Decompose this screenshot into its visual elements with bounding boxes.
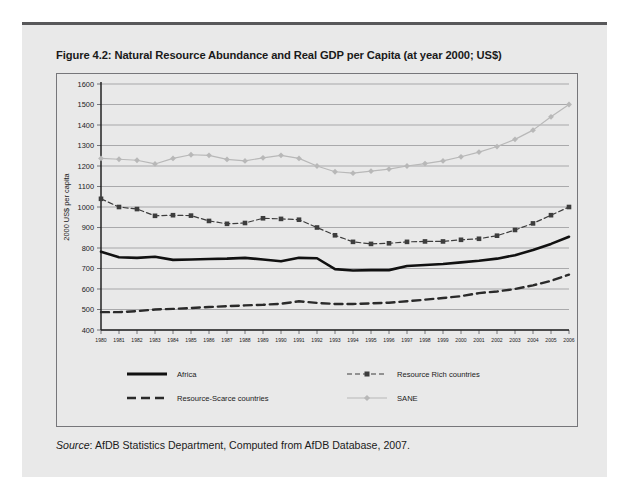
series-marker (117, 205, 122, 210)
y-axis-ticks: 4005006007008009001000110012001300140015… (78, 80, 101, 335)
series-marker (477, 236, 482, 241)
series-line (101, 105, 569, 174)
y-tick-label: 1400 (78, 121, 94, 130)
series-marker (512, 136, 518, 142)
chart-plot-area: 4005006007008009001000110012001300140015… (56, 73, 578, 427)
legend-marker (365, 372, 370, 377)
x-tick-label: 2004 (527, 337, 538, 343)
series-marker (440, 158, 446, 164)
y-axis-title: 2000 US$ per capita (62, 172, 71, 240)
series-marker (441, 239, 446, 244)
x-tick-label: 1998 (419, 337, 430, 343)
y-tick-label: 1200 (78, 162, 94, 171)
x-tick-label: 1992 (311, 337, 322, 343)
series-line (101, 275, 569, 313)
x-tick-label: 1990 (275, 337, 286, 343)
series-marker (207, 219, 212, 224)
gdp-per-capita-line-chart: 4005006007008009001000110012001300140015… (57, 74, 575, 424)
y-tick-label: 1500 (78, 100, 94, 109)
series-marker (99, 197, 104, 202)
series-marker (513, 228, 518, 233)
y-tick-label: 500 (82, 305, 94, 314)
series-marker (404, 163, 410, 169)
y-tick-label: 700 (82, 264, 94, 273)
x-tick-label: 1981 (113, 337, 124, 343)
series-marker (153, 214, 158, 219)
y-tick-label: 1100 (78, 182, 94, 191)
series-marker (567, 205, 572, 210)
y-tick-label: 800 (82, 244, 94, 253)
series-marker (170, 156, 176, 162)
figure-card: Figure 4.2: Natural Resource Abundance a… (22, 22, 607, 477)
x-tick-label: 1996 (383, 337, 394, 343)
axis-lines (101, 82, 569, 330)
x-tick-label: 2001 (473, 337, 484, 343)
x-tick-label: 1982 (131, 337, 142, 343)
series-marker (368, 168, 374, 174)
x-tick-label: 2006 (563, 337, 574, 343)
series-marker (98, 156, 104, 162)
legend-label: SANE (397, 394, 418, 403)
series-marker (350, 170, 356, 176)
y-tick-label: 1300 (78, 141, 94, 150)
series-marker (531, 221, 536, 226)
series-marker (315, 225, 320, 230)
x-tick-label: 1994 (347, 337, 358, 343)
source-note: Source: AfDB Statistics Department, Comp… (56, 439, 410, 451)
series-marker (422, 161, 428, 167)
chart-legend: AfricaResource Rich countriesResource-Sc… (127, 370, 480, 403)
series-marker (405, 240, 410, 245)
x-tick-label: 1991 (293, 337, 304, 343)
legend-label: Resource-Scarce countries (177, 394, 269, 403)
series-marker (296, 156, 302, 162)
x-tick-label: 1986 (203, 337, 214, 343)
source-text: : AfDB Statistics Department, Computed f… (90, 439, 410, 451)
series-marker (387, 241, 392, 246)
x-tick-label: 2005 (545, 337, 556, 343)
series-marker (351, 240, 356, 245)
x-tick-label: 2002 (491, 337, 502, 343)
y-tick-label: 400 (82, 326, 94, 335)
series-marker (314, 163, 320, 169)
series-marker (206, 152, 212, 158)
series-marker (279, 217, 284, 222)
series-marker (171, 213, 176, 218)
x-axis-ticks: 1980198119821983198419851986198719881989… (95, 330, 574, 343)
series-marker (549, 213, 554, 218)
legend-label: Resource Rich countries (397, 370, 480, 379)
source-label: Source (56, 439, 90, 451)
x-tick-label: 1999 (437, 337, 448, 343)
series-marker (260, 155, 266, 161)
series-marker (369, 242, 374, 247)
series-marker (243, 221, 248, 226)
series-marker (495, 233, 500, 238)
x-tick-label: 1993 (329, 337, 340, 343)
series-marker (116, 156, 122, 162)
series-marker (224, 157, 230, 163)
series-marker (459, 238, 464, 243)
x-tick-label: 1989 (257, 337, 268, 343)
y-tick-label: 900 (82, 223, 94, 232)
series-marker (135, 207, 140, 212)
y-tick-label: 1000 (78, 203, 94, 212)
series-marker (242, 158, 248, 164)
series-marker (423, 239, 428, 244)
series-marker (261, 216, 266, 221)
series-line (101, 237, 569, 271)
gridlines (101, 84, 569, 330)
y-tick-label: 1600 (78, 80, 94, 89)
series-marker (297, 217, 302, 222)
series-marker (332, 169, 338, 175)
legend-label: Africa (177, 370, 197, 379)
series-marker (458, 154, 464, 160)
series-marker (494, 144, 500, 150)
x-tick-label: 1980 (95, 337, 106, 343)
x-tick-label: 1985 (185, 337, 196, 343)
series-marker (476, 149, 482, 155)
series-marker (225, 222, 230, 227)
series-marker (189, 213, 194, 218)
legend-marker (364, 395, 370, 401)
x-tick-label: 1997 (401, 337, 412, 343)
series-marker (278, 152, 284, 158)
x-tick-label: 2003 (509, 337, 520, 343)
